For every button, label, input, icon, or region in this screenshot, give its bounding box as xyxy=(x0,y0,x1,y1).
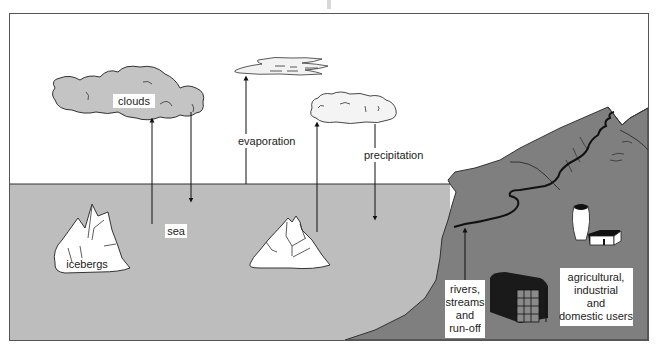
top-tick-mark xyxy=(327,0,331,9)
svg-text:agricultural,: agricultural, xyxy=(568,271,625,283)
svg-text:domestic users: domestic users xyxy=(559,310,633,322)
svg-text:run-off: run-off xyxy=(449,322,482,334)
svg-text:and: and xyxy=(587,297,605,309)
water-cycle-diagram: clouds evaporation precipitation sea xyxy=(0,0,658,351)
svg-text:and: and xyxy=(456,309,474,321)
svg-text:streams: streams xyxy=(445,296,485,308)
svg-text:industrial: industrial xyxy=(574,284,618,296)
sea-label: sea xyxy=(167,225,186,237)
users-label: agricultural, industrial and domestic us… xyxy=(559,268,633,326)
icebergs-label: icebergs xyxy=(66,258,108,270)
rivers-label: rivers, streams and run-off xyxy=(445,280,485,338)
svg-text:rivers,: rivers, xyxy=(450,283,480,295)
evaporation-label: evaporation xyxy=(238,135,296,147)
clouds-label: clouds xyxy=(118,95,150,107)
precipitation-label: precipitation xyxy=(364,149,423,161)
